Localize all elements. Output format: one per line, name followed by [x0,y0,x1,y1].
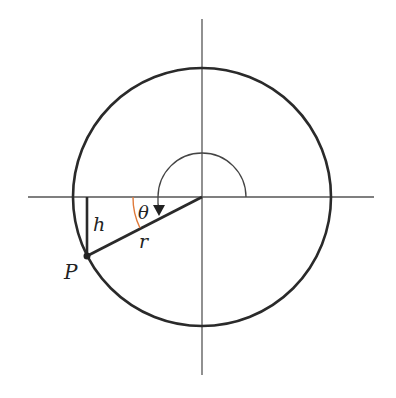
label-theta: θ [138,202,149,223]
rotation-arrow-icon [153,205,165,216]
label-p: P [63,260,78,284]
label-r: r [139,230,150,252]
unit-circle-diagram: h θ r P [0,0,396,398]
point-p-marker [84,253,91,260]
label-h: h [93,213,105,235]
